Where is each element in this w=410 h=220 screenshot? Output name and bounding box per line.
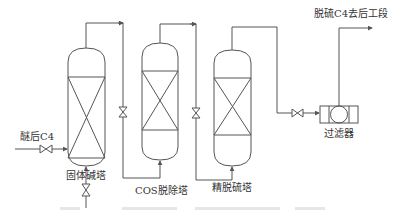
line-tower1-to-tower2 [86, 23, 160, 178]
tower-3-vessel [214, 50, 251, 166]
figure-caption-faint [60, 207, 360, 211]
tower-3-label: 精脱硫塔 [212, 182, 252, 194]
line-tower2-to-tower3 [160, 24, 232, 180]
valve-icon [119, 107, 127, 117]
tower-1-label: 固体碱塔 [66, 170, 106, 182]
filter-label: 过滤器 [324, 128, 354, 140]
feed-label: 醚后C4 [20, 131, 54, 143]
process-flow-diagram [0, 0, 410, 220]
valve-icon [192, 108, 200, 118]
tower-2-label: COS脱除塔 [135, 185, 188, 197]
feed-valve-icon [40, 145, 52, 153]
product-line [339, 28, 372, 106]
tower-1-vessel [68, 48, 105, 166]
tower-2-vessel [142, 43, 178, 160]
valve-icon [292, 109, 303, 117]
line-tower3-to-filter [232, 27, 319, 117]
product-label: 脱硫C4去后工段 [314, 8, 388, 20]
filter-vessel [320, 106, 358, 123]
